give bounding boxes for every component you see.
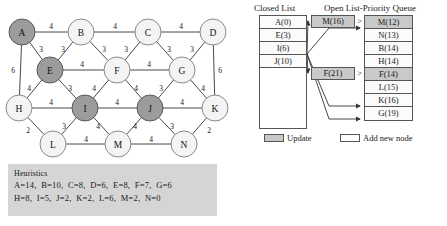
graph-node-label-I: I bbox=[83, 104, 86, 114]
legend-label-update: Update bbox=[287, 133, 312, 143]
open-list-row: H(14) bbox=[365, 55, 412, 68]
update-box-f: F(21) bbox=[311, 67, 355, 80]
edge-weight-J-K: 4 bbox=[180, 98, 184, 107]
closed-list-row: E(3) bbox=[260, 29, 306, 42]
closed-list-table: A(0)E(3)I(6)J(10) bbox=[259, 15, 307, 129]
graph-node-label-J: J bbox=[148, 104, 152, 114]
closed-list-row: A(0) bbox=[260, 16, 306, 29]
graph-node-label-L: L bbox=[50, 140, 56, 150]
edge-weight-C-D: 4 bbox=[179, 22, 183, 31]
open-list-row: G(19) bbox=[365, 107, 412, 120]
edge-weight-B-E: 3 bbox=[61, 45, 65, 54]
closed-list-row: I(6) bbox=[260, 42, 306, 55]
edge-weight-J-M: 4 bbox=[133, 122, 137, 131]
heuristics-line-1: A=14, B=10, C=8, D=6, E=8, F=7, G=6 bbox=[14, 179, 211, 192]
edge-weight-A-E: 3 bbox=[39, 45, 43, 54]
arrow-to-g19 bbox=[307, 54, 360, 119]
update-box-m: M(16) bbox=[311, 15, 355, 28]
edge-weight-J-N: 3 bbox=[170, 122, 174, 131]
open-list-row: B(14) bbox=[365, 42, 412, 55]
edge-weight-B-F: 3 bbox=[102, 45, 106, 54]
legend-swatch-update bbox=[264, 134, 284, 142]
legend-item-add-new-node: Add new node bbox=[340, 133, 413, 143]
graph-node-label-A: A bbox=[19, 28, 26, 38]
graph-node-label-N: N bbox=[181, 140, 188, 150]
edge-weight-E-F: 4 bbox=[80, 60, 84, 69]
edge-weight-L-M: 4 bbox=[84, 135, 88, 144]
graph-edges bbox=[20, 32, 215, 144]
comparator-m: > bbox=[357, 15, 362, 28]
open-list-row: N(13) bbox=[365, 29, 412, 42]
heuristics-title: Heuristics bbox=[14, 168, 211, 179]
graph-node-label-D: D bbox=[210, 28, 217, 38]
open-list-row: L(15) bbox=[365, 81, 412, 94]
edge-weight-B-C: 4 bbox=[113, 22, 117, 31]
edge-weight-I-M: 4 bbox=[96, 122, 100, 131]
edge-weight-F-G: 4 bbox=[147, 60, 151, 69]
closed-list-empty-area bbox=[260, 68, 306, 128]
legend-item-update: Update bbox=[264, 133, 312, 143]
heuristics-box: Heuristics A=14, B=10, C=8, D=6, E=8, F=… bbox=[8, 164, 217, 216]
edge-weight-D-K: 6 bbox=[218, 66, 222, 75]
graph-node-label-G: G bbox=[179, 66, 186, 76]
edge-weight-C-F: 3 bbox=[124, 45, 128, 54]
edge-weight-H-L: 2 bbox=[26, 126, 30, 135]
graph-node-label-K: K bbox=[212, 104, 219, 114]
graph-node-label-M: M bbox=[114, 140, 123, 150]
edge-weight-A-H: 6 bbox=[11, 66, 15, 75]
open-list-row: K(16) bbox=[365, 94, 412, 107]
graph-svg: 444333333664443443444423443244 ABCDEFGHI… bbox=[0, 0, 236, 160]
graph-nodes: ABCDEFGHIJKLMN bbox=[6, 19, 228, 157]
search-lists-panel: Closed List Open List-Priority Queue A(0… bbox=[236, 0, 447, 226]
legend-swatch-add-new-node bbox=[340, 134, 360, 142]
heuristics-line-2: H=8, I=5, J=2, K=2, L=6, M=2, N=0 bbox=[14, 192, 211, 205]
comparator-f: > bbox=[357, 67, 362, 80]
edge-weight-F-I: 4 bbox=[92, 84, 96, 93]
arrow-to-k16 bbox=[307, 54, 360, 106]
open-list-table: M(12)N(13)B(14)H(14)F(14)L(15)K(16)G(19) bbox=[364, 15, 413, 121]
graph-node-label-E: E bbox=[47, 66, 53, 76]
closed-list-row: J(10) bbox=[260, 55, 306, 68]
edge-weight-M-N: 4 bbox=[149, 135, 153, 144]
graph-edge-H-L bbox=[28, 117, 44, 134]
arrow-to-m16 bbox=[307, 21, 308, 54]
graph-edge-A-H bbox=[20, 45, 22, 95]
edge-weight-D-G: 3 bbox=[190, 45, 194, 54]
graph-panel: 444333333664443443444423443244 ABCDEFGHI… bbox=[0, 0, 236, 160]
legend: Update Add new node bbox=[236, 133, 447, 149]
edge-weight-E-H: 4 bbox=[27, 84, 31, 93]
edge-weight-A-B: 4 bbox=[49, 22, 53, 31]
figure-root: 444333333664443443444423443244 ABCDEFGHI… bbox=[0, 0, 447, 226]
edge-weight-G-J: 3 bbox=[159, 84, 163, 93]
graph-edge-D-K bbox=[213, 45, 214, 95]
edge-weight-F-J: 4 bbox=[134, 84, 138, 93]
open-list-row: F(14) bbox=[365, 68, 412, 81]
edge-weight-H-I: 4 bbox=[49, 98, 53, 107]
legend-label-add-new-node: Add new node bbox=[363, 133, 413, 143]
graph-node-label-B: B bbox=[78, 28, 84, 38]
edge-weight-C-G: 3 bbox=[167, 45, 171, 54]
edge-weight-E-I: 3 bbox=[68, 84, 72, 93]
graph-edge-K-N bbox=[192, 118, 206, 134]
graph-node-label-H: H bbox=[16, 104, 23, 114]
edge-weight-K-N: 2 bbox=[207, 126, 211, 135]
graph-node-label-F: F bbox=[114, 66, 119, 76]
open-list-row: M(12) bbox=[365, 16, 412, 29]
edge-weight-I-J: 4 bbox=[115, 98, 119, 107]
edge-weight-G-K: 4 bbox=[201, 84, 205, 93]
arrow-to-n13 bbox=[307, 28, 360, 54]
edge-weight-I-L: 3 bbox=[62, 122, 66, 131]
graph-node-label-C: C bbox=[145, 28, 151, 38]
